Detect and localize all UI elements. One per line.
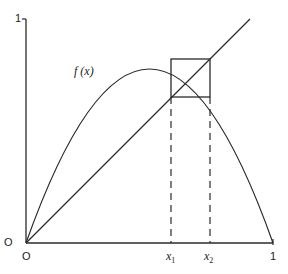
function-label: f (x) bbox=[74, 65, 94, 77]
x-axis-origin-label: O bbox=[22, 251, 31, 262]
cobweb-diagram bbox=[0, 0, 288, 274]
x-axis-end-label: 1 bbox=[270, 251, 276, 262]
y-axis-top-label: 1 bbox=[15, 13, 21, 24]
x2-label: x2 bbox=[204, 250, 213, 265]
parabola-curve bbox=[26, 69, 273, 243]
x1-label: x1 bbox=[166, 250, 175, 265]
diagonal-line bbox=[26, 19, 250, 243]
y-axis-origin-label: O bbox=[4, 237, 13, 248]
